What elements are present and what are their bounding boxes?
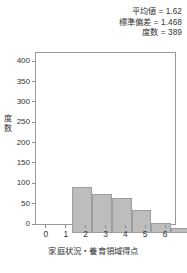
x-axis-tick-label: 0 [36, 229, 56, 239]
y-axis-tick-label: 400 [17, 56, 30, 65]
y-axis-tick-label: 150 [17, 158, 30, 167]
x-axis-tick-mark [145, 225, 146, 228]
x-axis-tick-mark [85, 225, 86, 228]
y-axis-tick-label: 200 [17, 138, 30, 147]
y-axis-tick-label: 250 [17, 117, 30, 126]
x-axis-label: 家庭状況・養育領域得点 [0, 244, 187, 256]
x-axis-tick-label: 5 [135, 229, 155, 239]
x-axis-tick-mark [65, 225, 66, 228]
x-axis-tick-label: 2 [76, 229, 96, 239]
x-axis-tick-label: 3 [96, 229, 116, 239]
plot-area [35, 52, 176, 225]
y-axis-ticks: 050100150200250300350400 [0, 52, 35, 225]
y-axis-tick-label: 300 [17, 97, 30, 106]
x-axis-tick-mark [165, 225, 166, 228]
y-axis-tick-label: 0 [26, 219, 30, 228]
x-axis-tick-mark [125, 225, 126, 228]
bar-series [72, 62, 187, 233]
y-axis-tick-label: 100 [17, 178, 30, 187]
x-axis-ticks: 0123456 [35, 225, 176, 241]
x-axis-tick-label: 6 [155, 229, 175, 239]
x-axis-tick-label: 4 [115, 229, 135, 239]
x-axis-tick-mark [105, 225, 106, 228]
standard-deviation-text: 標準偏差 = 1.468 [0, 18, 182, 29]
statistics-summary: 平均値 = 1.62 標準偏差 = 1.468 度数 = 389 [0, 7, 182, 39]
y-axis-tick-label: 350 [17, 77, 30, 86]
frequency-count-text: 度数 = 389 [0, 28, 182, 39]
x-axis-tick-label: 1 [56, 229, 76, 239]
x-axis-tick-mark [45, 225, 46, 228]
y-axis-tick-label: 50 [21, 199, 30, 208]
histogram-chart: 度 数 050100150200250300350400 0123456 家庭状… [0, 44, 187, 273]
mean-value-text: 平均値 = 1.62 [0, 7, 182, 18]
